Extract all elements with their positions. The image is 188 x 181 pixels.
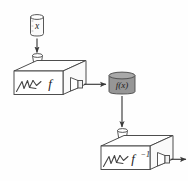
function-machine-diagram: x f	[0, 0, 188, 181]
middle-can-group: f(x)	[109, 72, 135, 94]
input-can-group: x	[31, 15, 44, 36]
hopper-rim	[118, 129, 128, 133]
hopper-rim	[33, 54, 43, 58]
diagram-canvas: x f	[0, 0, 188, 181]
middle-can-top	[109, 72, 135, 79]
input-can-label: x	[34, 21, 40, 31]
spout-tip	[78, 81, 83, 89]
middle-can-label: f(x)	[116, 80, 129, 90]
input-can-top	[31, 15, 44, 20]
machine-inverse-exponent: −1	[141, 150, 150, 159]
spout-tip	[165, 156, 170, 164]
machine-forward-group: f	[14, 54, 86, 95]
machine-inverse-group: f −1	[101, 129, 173, 170]
